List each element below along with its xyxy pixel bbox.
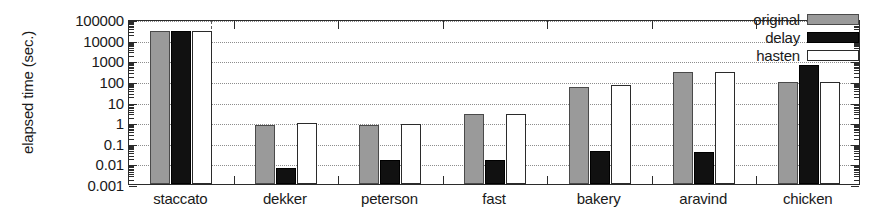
legend-label-delay: delay (765, 30, 800, 45)
y-major-tick (129, 104, 137, 105)
x-group-tick (652, 21, 653, 29)
y-minor-tick (129, 147, 134, 148)
y-major-tick (129, 124, 137, 125)
y-minor-tick (129, 85, 134, 86)
bar-fast-hasten (506, 114, 526, 184)
y-minor-tick (129, 84, 134, 85)
x-group-tick (338, 21, 339, 29)
y-minor-tick (854, 151, 859, 152)
y-major-tick (851, 145, 859, 146)
y-minor-tick (854, 146, 859, 147)
y-minor-tick (129, 48, 134, 49)
y-minor-tick (129, 166, 134, 167)
bar-bakery-delay (590, 151, 610, 184)
x-group-tick (652, 176, 653, 184)
bar-chicken-hasten (820, 82, 840, 184)
y-minor-tick (854, 174, 859, 175)
y-minor-tick (129, 64, 134, 65)
legend-label-hasten: hasten (756, 48, 800, 63)
bar-dekker-hasten (297, 123, 317, 184)
y-minor-tick (129, 63, 134, 64)
bar-peterson-delay (380, 160, 400, 184)
y-minor-tick (854, 147, 859, 148)
y-minor-tick (129, 107, 134, 108)
y-minor-tick (854, 108, 859, 109)
y-minor-tick (129, 22, 134, 23)
y-major-tick (851, 124, 859, 125)
y-minor-tick (129, 94, 134, 95)
x-group-tick (547, 21, 548, 29)
bar-peterson-hasten (401, 124, 421, 184)
y-minor-tick (129, 112, 134, 113)
y-minor-tick (129, 68, 134, 69)
y-minor-tick (854, 125, 859, 126)
x-axis-tick-labels: staccatodekkerpetersonfastbakeryaravindc… (128, 190, 860, 218)
y-minor-tick (854, 86, 859, 87)
y-minor-tick (129, 127, 134, 128)
y-minor-tick (854, 87, 859, 88)
y-minor-tick (129, 129, 134, 130)
y-tick-label: 1 (116, 116, 124, 131)
y-minor-tick (129, 118, 134, 119)
y-minor-tick (854, 84, 859, 85)
y-major-tick (851, 83, 859, 84)
x-group-tick (234, 21, 235, 29)
y-minor-tick (854, 153, 859, 154)
y-minor-tick (129, 135, 134, 136)
y-minor-tick (854, 166, 859, 167)
y-tick-label: 1000 (91, 54, 124, 69)
y-minor-tick (129, 174, 134, 175)
y-tick-label: 100000 (75, 13, 124, 28)
y-minor-tick (129, 67, 134, 68)
y-minor-tick (854, 104, 859, 105)
y-axis-tick-labels: 0.0010.010.1110100100010000100000 (28, 0, 124, 223)
x-tick-label-chicken: chicken (783, 190, 832, 207)
y-major-tick (129, 145, 137, 146)
bar-dekker-delay (276, 168, 296, 184)
bar-bakery-original (569, 87, 589, 184)
x-tick-label-aravind: aravind (679, 190, 727, 207)
bar-peterson-original (359, 125, 379, 184)
y-minor-tick (129, 52, 134, 53)
y-minor-tick (129, 26, 134, 27)
y-major-tick (129, 42, 137, 43)
bar-fast-delay (485, 160, 505, 184)
y-minor-tick (129, 108, 134, 109)
y-minor-tick (854, 135, 859, 136)
y-minor-tick (854, 107, 859, 108)
gridline (129, 145, 859, 146)
y-minor-tick (129, 172, 134, 173)
y-minor-tick (129, 149, 134, 150)
bar-staccato-original (150, 31, 170, 184)
y-minor-tick (854, 94, 859, 95)
x-group-tick (547, 176, 548, 184)
chart-legend: originaldelayhasten (749, 10, 863, 65)
gridline (129, 104, 859, 105)
y-minor-tick (129, 27, 134, 28)
bar-chicken-delay (799, 65, 819, 184)
y-minor-tick (129, 91, 134, 92)
y-minor-tick (129, 87, 134, 88)
y-minor-tick (129, 125, 134, 126)
y-minor-tick (854, 130, 859, 131)
y-minor-tick (129, 97, 134, 98)
legend-item-original: original (753, 12, 859, 27)
y-minor-tick (854, 97, 859, 98)
y-minor-tick (854, 110, 859, 111)
y-minor-tick (129, 104, 134, 105)
y-minor-tick (854, 77, 859, 78)
y-minor-tick (129, 151, 134, 152)
legend-item-hasten: hasten (753, 48, 859, 63)
y-minor-tick (129, 29, 134, 30)
y-minor-tick (129, 139, 134, 140)
bar-dekker-original (255, 125, 275, 184)
y-minor-tick (854, 170, 859, 171)
y-tick-label: 0.001 (87, 178, 124, 193)
y-minor-tick (129, 132, 134, 133)
legend-item-delay: delay (753, 30, 859, 45)
y-minor-tick (854, 68, 859, 69)
bar-chicken-original (778, 82, 798, 184)
y-minor-tick (854, 112, 859, 113)
y-minor-tick (129, 146, 134, 147)
x-tick-label-dekker: dekker (263, 190, 307, 207)
